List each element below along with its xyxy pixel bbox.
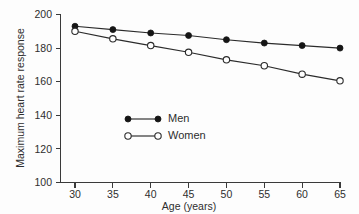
data-point-men-60 xyxy=(299,43,305,49)
data-point-women-40 xyxy=(148,42,154,48)
data-point-men-45 xyxy=(186,33,192,39)
data-point-women-30 xyxy=(72,28,78,34)
x-tick-label: 65 xyxy=(334,188,346,200)
data-point-men-50 xyxy=(223,37,229,43)
y-tick-label: 100 xyxy=(34,176,52,188)
chart-figure: 100 120 140 160 180 200 30 35 40 45 50 5… xyxy=(0,0,359,214)
data-point-women-35 xyxy=(110,36,116,42)
x-axis-title: Age (years) xyxy=(162,200,216,212)
x-axis-tick-labels: 30 35 40 45 50 55 60 65 xyxy=(69,188,346,200)
legend-marker-men-start xyxy=(125,116,131,122)
data-point-men-65 xyxy=(337,45,343,51)
chart-series-group xyxy=(72,23,343,84)
y-tick-label: 200 xyxy=(34,8,52,20)
legend-label-men: Men xyxy=(168,112,189,124)
x-tick-label: 45 xyxy=(183,188,195,200)
x-tick-label: 50 xyxy=(221,188,233,200)
y-tick-label: 160 xyxy=(34,75,52,87)
data-point-women-65 xyxy=(337,78,343,84)
data-point-men-55 xyxy=(261,40,267,46)
data-point-women-55 xyxy=(261,63,267,69)
legend-marker-women-start xyxy=(125,133,131,139)
x-tick-label: 55 xyxy=(258,188,270,200)
legend-marker-women-end xyxy=(155,133,161,139)
data-point-women-60 xyxy=(299,71,305,77)
x-tick-label: 35 xyxy=(107,188,119,200)
data-point-men-35 xyxy=(110,27,116,33)
x-tick-label: 40 xyxy=(145,188,157,200)
chart-plot-area: 100 120 140 160 180 200 30 35 40 45 50 5… xyxy=(0,0,359,214)
data-point-women-50 xyxy=(223,57,229,63)
x-tick-label: 30 xyxy=(69,188,81,200)
x-tick-label: 60 xyxy=(296,188,308,200)
data-point-men-40 xyxy=(148,30,154,36)
y-tick-label: 140 xyxy=(34,109,52,121)
legend-label-women: Women xyxy=(168,129,206,141)
y-axis-title: Maximum heart rate response xyxy=(14,28,26,168)
y-tick-label: 120 xyxy=(34,143,52,155)
legend-marker-men-end xyxy=(155,116,161,122)
chart-axes xyxy=(61,14,341,183)
chart-legend: Men Women xyxy=(125,112,206,141)
y-tick-label: 180 xyxy=(34,42,52,54)
data-point-women-45 xyxy=(185,49,191,55)
y-axis-tick-labels: 100 120 140 160 180 200 xyxy=(34,8,52,188)
y-axis-ticks xyxy=(56,15,61,183)
